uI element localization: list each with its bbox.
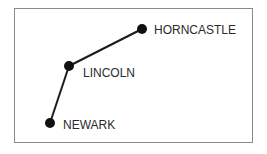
- label-horncastle: HORNCASTLE: [154, 24, 236, 36]
- label-lincoln: LINCOLN: [83, 67, 135, 79]
- node-lincoln-icon: [64, 61, 74, 71]
- node-horncastle-icon: [137, 24, 147, 34]
- edge-newark-lincoln: [50, 66, 69, 123]
- label-newark: NEWARK: [63, 119, 115, 131]
- node-newark-icon: [45, 118, 55, 128]
- edge-lincoln-horncastle: [69, 29, 142, 66]
